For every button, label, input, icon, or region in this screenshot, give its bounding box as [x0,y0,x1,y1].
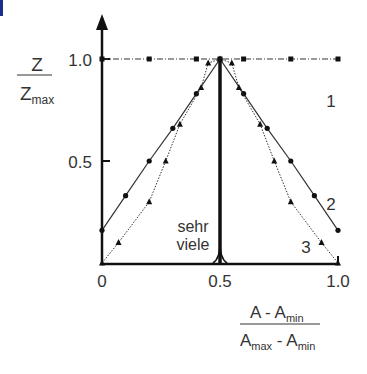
x-tick-label-0: 0 [97,272,106,291]
series-layer [99,56,341,266]
series-label-2: 2 [326,195,335,214]
y-axis-label: Z Zmax [17,54,54,107]
y-axis-arrow-icon [96,14,108,30]
annotation-sehr: sehr [177,218,209,235]
series-label-1: 1 [326,92,335,111]
x-label-denominator: Amax - Amin [240,331,315,352]
series-label-3: 3 [301,238,310,257]
x-tick-label-1: 1.0 [326,272,350,291]
x-axis-label: A - Amin Amax - Amin [240,303,320,352]
y-tick-label-1: 1.0 [68,51,92,70]
y-label-numerator: Z [31,54,43,75]
chart: 1.0 0.5 0 0.5 1.0 Z Zmax A - Amin Amax -… [0,0,367,374]
y-tick-label-0.5: 0.5 [68,153,92,172]
x-label-numerator: A - Amin [250,303,304,324]
annotation-viele: viele [177,236,210,253]
x-tick-label-0.5: 0.5 [208,272,232,291]
y-label-denominator: Zmax [20,83,54,107]
series-4 [213,59,227,263]
